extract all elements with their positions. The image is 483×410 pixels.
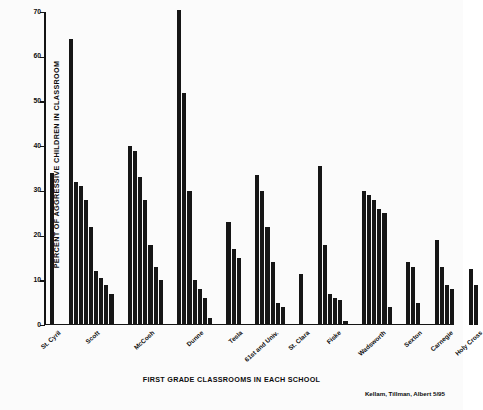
bar bbox=[343, 321, 347, 325]
x-group-label-text: Holy Cross bbox=[453, 329, 483, 357]
bar bbox=[133, 151, 137, 325]
x-group-label-text: Sexton bbox=[402, 329, 423, 348]
y-tick-label: 40 bbox=[33, 142, 41, 149]
bar bbox=[99, 278, 103, 325]
bar bbox=[128, 146, 132, 325]
y-tick-label: 20 bbox=[33, 231, 41, 238]
bar bbox=[276, 303, 280, 325]
bar bbox=[377, 209, 381, 325]
bar bbox=[260, 191, 264, 325]
bar bbox=[445, 285, 449, 325]
bar bbox=[177, 10, 181, 325]
bar bbox=[469, 269, 473, 325]
y-tick-label: 10 bbox=[33, 276, 41, 283]
y-tick-label: 60 bbox=[33, 52, 41, 59]
bar bbox=[318, 166, 322, 325]
bar bbox=[50, 173, 54, 325]
bar bbox=[104, 285, 108, 325]
x-group-label-text: Scott bbox=[84, 329, 101, 345]
x-axis-title: FIRST GRADE CLASSROOMS IN EACH SCHOOL bbox=[0, 375, 463, 384]
chart-credit: Kellam, Tillman, Albert 5/95 bbox=[365, 390, 445, 397]
bar bbox=[271, 262, 275, 325]
bar bbox=[79, 186, 83, 325]
bar bbox=[89, 227, 93, 325]
bar bbox=[382, 213, 386, 325]
plot-area: 010203040506070 bbox=[44, 12, 452, 325]
bar bbox=[109, 294, 113, 325]
x-group-label-text: Tesla bbox=[227, 329, 243, 345]
bar bbox=[203, 298, 207, 325]
bar bbox=[226, 222, 230, 325]
bar bbox=[338, 300, 342, 325]
bar bbox=[154, 267, 158, 325]
bar bbox=[411, 267, 415, 325]
x-group-label-text: Carnegie bbox=[429, 329, 454, 353]
bar bbox=[74, 182, 78, 325]
y-tick-label: 0 bbox=[37, 321, 41, 328]
bar bbox=[474, 285, 478, 325]
bar bbox=[198, 289, 202, 325]
bar bbox=[148, 245, 152, 325]
y-axis-line bbox=[44, 12, 46, 325]
bar bbox=[208, 318, 212, 325]
bar bbox=[94, 271, 98, 325]
bar bbox=[232, 249, 236, 325]
bar bbox=[159, 280, 163, 325]
bar bbox=[450, 289, 454, 325]
y-tick-label: 50 bbox=[33, 97, 41, 104]
x-group-label-text: Fiske bbox=[326, 329, 343, 345]
bar bbox=[84, 200, 88, 325]
y-tick-label: 30 bbox=[33, 186, 41, 193]
bar bbox=[255, 175, 259, 325]
x-group-label-text: McCosh bbox=[132, 329, 155, 351]
bar bbox=[362, 191, 366, 325]
y-tick-label: 70 bbox=[33, 8, 41, 15]
bar bbox=[193, 280, 197, 325]
x-group-label-text: 61st and Univ. bbox=[243, 329, 280, 363]
bar bbox=[333, 298, 337, 325]
bar bbox=[187, 191, 191, 325]
bar bbox=[388, 307, 392, 325]
bar bbox=[182, 93, 186, 326]
x-group-label-text: St. Clara bbox=[287, 329, 311, 352]
bar bbox=[323, 245, 327, 325]
bar bbox=[143, 200, 147, 325]
bar bbox=[237, 258, 241, 325]
bar bbox=[281, 307, 285, 325]
bar bbox=[69, 39, 73, 325]
bar bbox=[367, 195, 371, 325]
x-group-label-text: St. Cyril bbox=[39, 329, 62, 350]
bar bbox=[299, 274, 303, 325]
x-group-label-text: Dunne bbox=[185, 329, 204, 348]
x-group-label-text: Wadsworth bbox=[356, 329, 386, 357]
bar bbox=[435, 240, 439, 325]
bar bbox=[328, 294, 332, 325]
bar bbox=[440, 267, 444, 325]
bar bbox=[265, 227, 269, 325]
bar bbox=[138, 177, 142, 325]
bar bbox=[372, 200, 376, 325]
bar bbox=[406, 262, 410, 325]
bar bbox=[416, 303, 420, 325]
